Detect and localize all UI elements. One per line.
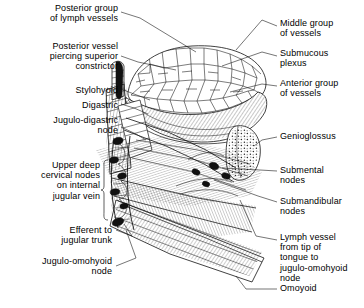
- label-middle-group-of-vessels: Middle group of vessels: [280, 18, 333, 38]
- label-posterior-group-lymph-vessels: Posterior group of lymph vessels: [50, 3, 118, 23]
- label-digastric: Digastric: [82, 100, 118, 110]
- label-anterior-group-of-vessels: Anterior group of vessels: [280, 78, 338, 98]
- label-upper-deep-cervical-nodes: Upper deep cervical nodes on internal ju…: [41, 160, 100, 201]
- label-submandibular-nodes: Submandibular nodes: [280, 196, 342, 216]
- label-submucous-plexus: Submucous plexus: [280, 48, 328, 68]
- label-stylohyoid: Stylohyoid: [75, 85, 118, 95]
- label-jugulo-digastric-node: Jugulo-digastric node: [53, 115, 118, 135]
- label-omoyoid: Omoyoid: [280, 283, 317, 293]
- label-posterior-vessel-piercing-superior-constrictor: Posterior vessel piercing superior const…: [50, 41, 118, 72]
- label-genioglossus: Genioglossus: [280, 131, 336, 141]
- label-lymph-vessel-from-tip-of-tongue: Lymph vessel from tip of tongue to jugul…: [280, 232, 348, 283]
- label-efferent-to-jugular-trunk: Efferent to jugular trunk: [61, 225, 112, 245]
- label-submental-nodes: Submental nodes: [280, 165, 324, 185]
- label-jugulo-omohyoid-node: Jugulo-omohyoid node: [42, 256, 112, 276]
- anatomy-figure: Posterior group of lymph vessels Posteri…: [0, 0, 364, 308]
